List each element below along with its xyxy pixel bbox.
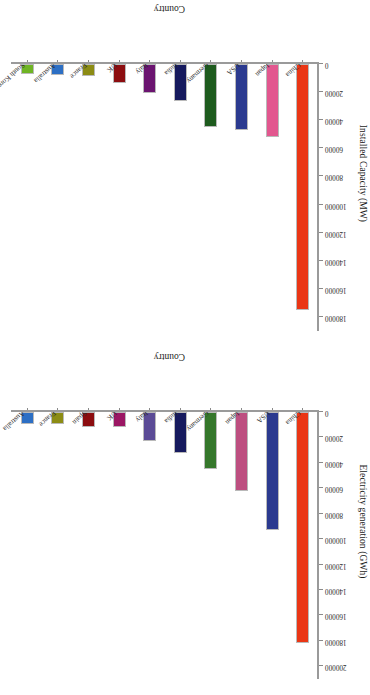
y-axis-tick-label: 20000 <box>325 89 359 96</box>
bar-series: ChinaUSAJapanGermanyIndiaItalyUKSpainFra… <box>12 412 318 679</box>
y-axis-tick-label: 120000 <box>325 561 359 568</box>
bar-slot: Italy <box>134 412 165 679</box>
y-axis-tick-label: 60000 <box>325 485 359 492</box>
y-axis-tick-mark <box>319 63 323 64</box>
bar-japan[interactable] <box>266 64 279 137</box>
y-axis-tick-label: 160000 <box>325 612 359 619</box>
chart-installed-capacity: Installed Capacity (MW)Country0200004000… <box>0 0 370 347</box>
y-axis-tick-label: 180000 <box>325 637 359 644</box>
bar-slot: Germany <box>196 412 227 679</box>
y-axis-tick-mark <box>319 411 323 412</box>
bar-slot: Italy <box>134 64 165 331</box>
bar-slot: Japan <box>226 412 257 679</box>
y-axis-tick-label: 0 <box>325 61 359 68</box>
bar-slot: UK <box>104 412 135 679</box>
y-axis-tick-mark <box>319 175 323 176</box>
y-axis-tick-label: 180000 <box>325 313 359 320</box>
chart-electricity-generation: Electricity generation (GWh)Country02000… <box>0 348 370 695</box>
y-axis-tick-label: 80000 <box>325 510 359 517</box>
y-axis-tick-label: 40000 <box>325 459 359 466</box>
y-axis-tick-mark <box>319 147 323 148</box>
bar-slot: USA <box>226 64 257 331</box>
y-axis-tick-mark <box>319 288 323 289</box>
bar-slot: France <box>73 64 104 331</box>
y-axis-tick-label: 160000 <box>325 285 359 292</box>
bar-slot: India <box>165 64 196 331</box>
bar-slot: China <box>287 64 318 331</box>
y-axis-tick-mark <box>319 91 323 92</box>
y-axis-tick-label: 60000 <box>325 145 359 152</box>
y-axis-tick-mark <box>319 665 323 666</box>
bar-slot: Japan <box>257 64 288 331</box>
y-axis-tick-mark <box>319 538 323 539</box>
y-axis-tick-mark <box>319 232 323 233</box>
x-axis-tick-label: South Korea <box>0 61 26 90</box>
y-axis-tick-mark <box>319 640 323 641</box>
x-axis-title: Country <box>154 352 185 362</box>
bar-slot: UK <box>104 64 135 331</box>
y-axis-tick-label: 140000 <box>325 587 359 594</box>
y-axis-tick-label: 40000 <box>325 117 359 124</box>
y-axis-tick-label: 100000 <box>325 536 359 543</box>
y-axis-tick-mark <box>319 487 323 488</box>
x-axis-line <box>11 410 319 412</box>
y-axis-tick-label: 20000 <box>325 434 359 441</box>
bar-slot: Australia <box>43 64 74 331</box>
y-axis-tick-label: 100000 <box>325 201 359 208</box>
bar-china[interactable] <box>296 64 309 310</box>
y-axis-tick-mark <box>319 614 323 615</box>
y-axis-tick-mark <box>319 260 323 261</box>
bar-usa[interactable] <box>266 412 279 530</box>
bar-slot: Spain <box>73 412 104 679</box>
bar-china[interactable] <box>296 412 309 643</box>
figure-page: Installed Capacity (MW)Country0200004000… <box>0 0 370 695</box>
y-axis-tick-label: 200000 <box>325 663 359 670</box>
x-axis-line <box>11 62 319 64</box>
bar-slot: France <box>43 412 74 679</box>
y-axis-tick-mark <box>319 119 323 120</box>
bar-slot: Germany <box>196 64 227 331</box>
y-axis-tick-mark <box>319 564 323 565</box>
x-axis-title: Country <box>154 4 185 14</box>
bar-slot: South Korea <box>12 64 43 331</box>
y-axis-tick-label: 80000 <box>325 173 359 180</box>
bar-germany[interactable] <box>204 64 217 127</box>
plot-area-installed-capacity: Installed Capacity (MW)Country0200004000… <box>0 0 370 347</box>
y-axis-tick-mark <box>319 436 323 437</box>
y-axis-tick-label: 140000 <box>325 257 359 264</box>
bar-slot: China <box>287 412 318 679</box>
y-axis-tick-label: 120000 <box>325 229 359 236</box>
bar-series: ChinaJapanUSAGermanyIndiaItalyUKFranceAu… <box>12 64 318 331</box>
bar-usa[interactable] <box>235 64 248 130</box>
y-axis-tick-mark <box>319 513 323 514</box>
bar-slot: USA <box>257 412 288 679</box>
bar-slot: India <box>165 412 196 679</box>
bar-japan[interactable] <box>235 412 248 491</box>
y-axis-tick-mark <box>319 589 323 590</box>
y-axis-tick-mark <box>319 204 323 205</box>
y-axis-tick-mark <box>319 316 323 317</box>
y-axis-tick-mark <box>319 462 323 463</box>
plot-area-electricity-generation: Electricity generation (GWh)Country02000… <box>0 348 370 695</box>
y-axis-tick-label: 0 <box>325 409 359 416</box>
bar-germany[interactable] <box>204 412 217 469</box>
bar-slot: Australia <box>12 412 43 679</box>
